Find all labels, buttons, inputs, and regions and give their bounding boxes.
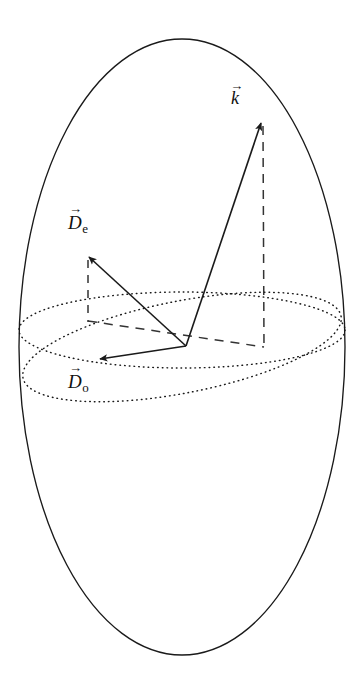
- vector-arrow-icon: →: [69, 361, 81, 374]
- vector-diagram: [0, 0, 362, 693]
- vector-k-arrow: [186, 123, 261, 346]
- figure-canvas: →De →Do →k: [0, 0, 362, 693]
- vector-do-arrow: [100, 346, 186, 359]
- label-do-symbol: →D: [68, 372, 82, 391]
- label-do: →Do: [68, 372, 89, 394]
- label-k: →k: [231, 89, 239, 107]
- label-de-subscript: e: [82, 221, 88, 236]
- vector-arrow-icon: →: [69, 202, 81, 215]
- equatorial-section-ellipse: [19, 292, 345, 368]
- k-vertical-drop-line: [263, 126, 264, 347]
- label-de: →De: [68, 213, 88, 235]
- label-k-symbol: →k: [231, 89, 239, 107]
- label-de-symbol: →D: [68, 213, 82, 232]
- vector-arrow-icon: →: [230, 79, 242, 92]
- horizontal-base-line: [88, 321, 264, 347]
- label-do-subscript: o: [82, 380, 89, 395]
